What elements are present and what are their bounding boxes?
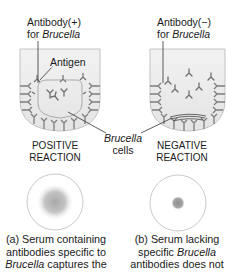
result-plate-positive bbox=[27, 174, 83, 230]
caption-rest: captures the bbox=[44, 258, 106, 270]
reaction-line2: REACTION bbox=[22, 152, 88, 164]
result-plate-negative bbox=[150, 175, 206, 231]
organism-name: Brucella bbox=[172, 28, 210, 40]
caption-a-line2: antibodies specific to bbox=[0, 246, 112, 259]
caption-prefix: specific bbox=[138, 246, 177, 258]
brucella-cells-line1: Brucella bbox=[96, 132, 150, 144]
well-negative bbox=[150, 49, 225, 131]
caption-a-line3: Brucella captures the bbox=[0, 258, 112, 271]
caption-a-line1: (a) Serum containing bbox=[0, 233, 112, 246]
organism-name: Brucella bbox=[42, 28, 80, 40]
brucella-cells-line2: cells bbox=[96, 144, 150, 156]
organism-name: Brucella bbox=[5, 258, 44, 270]
caption-b: (b) Serum lacking specific Brucella anti… bbox=[122, 233, 227, 271]
reaction-line1: POSITIVE bbox=[22, 140, 88, 152]
caption-b-line1: (b) Serum lacking bbox=[122, 233, 227, 246]
antibody-positive-line2: for Brucella bbox=[27, 28, 81, 40]
antigen-label: Antigen bbox=[50, 56, 86, 68]
antibody-positive-label: Antibody(+) for Brucella bbox=[27, 16, 81, 40]
reaction-line2: REACTION bbox=[149, 152, 215, 164]
caption-b-line2: specific Brucella bbox=[122, 246, 227, 259]
antibody-negative-line1: Antibody(−) bbox=[157, 16, 211, 28]
caption-b-line3: antibodies does not bbox=[122, 258, 227, 271]
organism-name: Brucella bbox=[177, 246, 216, 258]
brucella-cells-label: Brucella cells bbox=[96, 132, 150, 156]
negative-reaction-label: NEGATIVE REACTION bbox=[149, 140, 215, 164]
caption-a: (a) Serum containing antibodies specific… bbox=[0, 233, 112, 271]
antibody-positive-line1: Antibody(+) bbox=[27, 16, 81, 28]
prefix: for bbox=[157, 28, 172, 40]
positive-reaction-label: POSITIVE REACTION bbox=[22, 140, 88, 164]
prefix: for bbox=[27, 28, 42, 40]
reaction-line1: NEGATIVE bbox=[149, 140, 215, 152]
antibody-negative-label: Antibody(−) for Brucella bbox=[157, 16, 211, 40]
antibody-negative-line2: for Brucella bbox=[157, 28, 211, 40]
